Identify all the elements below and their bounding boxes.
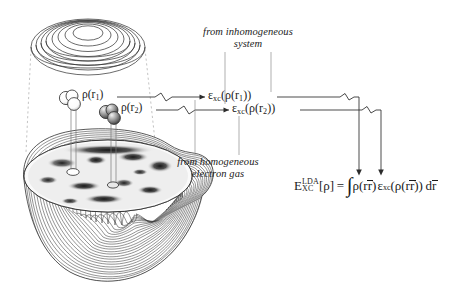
density-label-r2: ρ(r2) xyxy=(121,101,142,116)
formula-density: ρ(r xyxy=(352,178,367,193)
formula-E-symbol: E xyxy=(294,178,302,193)
epsilon-subscript-r2: xc xyxy=(237,107,245,116)
formula-E-scripts: LDAXC xyxy=(302,178,319,193)
note-homogeneous: from homogeneous electron gas xyxy=(166,156,270,180)
formula-epsilon-arg-open: (ρ(r xyxy=(390,178,409,193)
figure-canvas: eps_xc(rho(r1)) with zigzag break --> ep… xyxy=(0,0,464,296)
epsilon-arg-open-r1: (ρ(r xyxy=(221,88,239,102)
rho-r2-close: ) xyxy=(138,101,142,113)
formula-rbar-1: r xyxy=(368,179,372,194)
formula-subscript-xc: XC xyxy=(302,185,319,193)
epsilon-arg-close-r2: )) xyxy=(267,101,275,115)
epsilon-xc-term-r2: εxc(ρ(r2)) xyxy=(232,102,275,117)
epsilon-subscript-r1: xc xyxy=(213,94,221,103)
formula-bracket-rho: [ρ] xyxy=(319,178,334,193)
top-contour-surface xyxy=(31,19,145,75)
note-homogeneous-line1: from homogeneous xyxy=(166,156,270,168)
note-inhomogeneous-line1: from inhomogeneous xyxy=(196,26,300,38)
rho-r1-close: ) xyxy=(99,88,103,100)
note-homogeneous-line2: electron gas xyxy=(166,168,270,180)
probe-spheres-r2 xyxy=(99,104,120,124)
formula-equals: = xyxy=(337,178,344,193)
epsilon-arg-close-r1: )) xyxy=(243,88,251,102)
epsilon-arg-open-r2: (ρ(r xyxy=(245,101,263,115)
formula-integral-sign: ∫ xyxy=(347,173,353,197)
rho-r2-symbol: ρ(r xyxy=(121,101,134,113)
note-inhomogeneous-line2: system xyxy=(196,38,300,50)
density-label-r1: ρ(r1) xyxy=(82,88,103,103)
lda-formula: ELDAXC[ρ] = ∫ρ(rr) εxc(ρ(rr)) dr xyxy=(294,178,436,194)
molecular-isosurface xyxy=(20,129,214,282)
note-inhomogeneous: from inhomogeneous system xyxy=(196,26,300,50)
rho-r1-symbol: ρ(r xyxy=(82,88,95,100)
formula-rbar-3: r xyxy=(432,179,436,194)
formula-rbar-2: r xyxy=(410,179,414,194)
probe-spheres-r1 xyxy=(59,90,80,110)
